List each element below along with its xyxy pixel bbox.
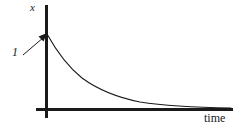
decay-curve — [47, 34, 231, 108]
y-axis-label: x — [30, 2, 35, 13]
x-axis-label: time — [204, 112, 225, 124]
annotation-leader-line — [23, 37, 44, 55]
intercept-annotation-label: 1 — [12, 46, 18, 58]
exponential-decay-figure: x time 1 — [0, 0, 240, 130]
